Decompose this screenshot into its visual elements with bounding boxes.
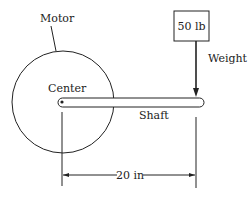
dimension-arrow-right xyxy=(189,173,195,177)
motor-shaft-diagram: Motor Center Shaft 50 lb Weight 20 in xyxy=(0,0,252,197)
weight-arrow-head xyxy=(193,88,199,97)
shaft xyxy=(58,98,204,107)
dimension-arrow-left xyxy=(63,173,69,177)
center-point xyxy=(60,100,63,103)
motor-leader-line xyxy=(51,26,56,51)
shaft-label: Shaft xyxy=(139,109,169,122)
center-label: Center xyxy=(48,82,87,95)
weight-value-label: 50 lb xyxy=(177,20,205,33)
weight-label: Weight xyxy=(208,52,248,65)
distance-label: 20 in xyxy=(116,169,144,182)
motor-label: Motor xyxy=(40,12,75,25)
